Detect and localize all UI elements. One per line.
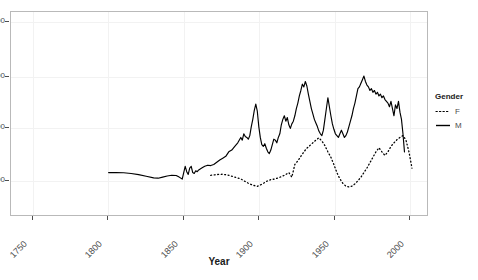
legend-key-solid-line-icon bbox=[434, 119, 452, 132]
x-tick-label: 1850 bbox=[160, 225, 195, 260]
y-tick-mark bbox=[5, 180, 9, 181]
x-axis-title: Year bbox=[0, 256, 438, 267]
y-tick-label: 1000 bbox=[0, 123, 5, 131]
x-tick-mark bbox=[32, 216, 33, 220]
legend-label-f: F bbox=[455, 108, 460, 116]
plot-panel bbox=[10, 11, 428, 216]
y-tick-mark bbox=[5, 127, 9, 128]
chart-container: 2000 1500 1000 500 1750 1800 1850 1900 1… bbox=[0, 0, 478, 280]
legend-item-f[interactable]: F bbox=[434, 105, 478, 118]
y-tick-label: 2000 bbox=[0, 17, 5, 25]
legend-item-m[interactable]: M bbox=[434, 119, 478, 132]
x-tick-label: 1950 bbox=[311, 225, 346, 260]
data-series-lines bbox=[11, 12, 427, 215]
y-tick-label: 1500 bbox=[0, 72, 5, 80]
x-tick-label: 1750 bbox=[9, 225, 44, 260]
legend-key-dotted-line-icon bbox=[434, 105, 452, 118]
y-tick-mark bbox=[5, 21, 9, 22]
legend-label-m: M bbox=[455, 122, 462, 130]
x-tick-label: 1900 bbox=[235, 225, 270, 260]
y-tick-label: 500 bbox=[0, 176, 5, 184]
legend: Gender F M bbox=[434, 92, 478, 133]
x-tick-mark bbox=[409, 216, 410, 220]
y-tick-mark bbox=[5, 76, 9, 77]
x-tick-mark bbox=[334, 216, 335, 220]
x-tick-mark bbox=[183, 216, 184, 220]
x-tick-mark bbox=[107, 216, 108, 220]
x-tick-label: 1800 bbox=[84, 225, 119, 260]
legend-title: Gender bbox=[435, 92, 478, 101]
x-tick-label: 2000 bbox=[386, 225, 421, 260]
x-tick-mark bbox=[258, 216, 259, 220]
